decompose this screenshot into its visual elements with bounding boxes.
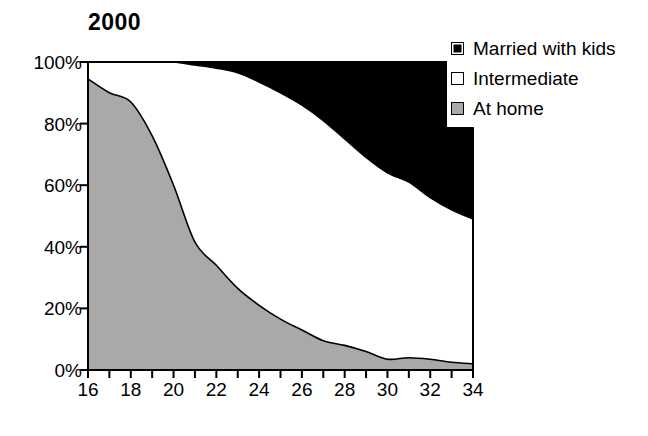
x-axis: 16182022242628303234	[88, 380, 473, 408]
stacked-area-plot	[88, 62, 473, 370]
x-tick-label: 22	[196, 380, 236, 399]
legend-label: Married with kids	[473, 39, 616, 58]
bottom-caption	[2, 424, 646, 436]
legend-swatch-black-icon	[451, 42, 464, 55]
y-tick-label: 100%	[10, 53, 82, 72]
x-tick-label: 34	[453, 380, 493, 399]
x-tick-label: 28	[325, 380, 365, 399]
legend-item[interactable]: Married with kids	[451, 33, 616, 63]
x-tick-label: 26	[282, 380, 322, 399]
x-tick-label: 24	[239, 380, 279, 399]
legend-label: At home	[473, 99, 544, 118]
x-tick-label: 20	[154, 380, 194, 399]
legend-label: Intermediate	[473, 69, 579, 88]
y-tick-label: 40%	[10, 237, 82, 256]
y-tick-label: 80%	[10, 114, 82, 133]
legend-item[interactable]: Intermediate	[451, 63, 616, 93]
chart-legend: Married with kidsIntermediateAt home	[447, 31, 620, 127]
x-tick-label: 30	[367, 380, 407, 399]
chart-title: 2000	[88, 11, 141, 34]
y-axis: 0%20%40%60%80%100%	[4, 62, 82, 370]
legend-swatch-white-icon	[451, 72, 464, 85]
legend-item[interactable]: At home	[451, 93, 616, 123]
legend-swatch-gray-icon	[451, 102, 464, 115]
x-tick-label: 18	[111, 380, 151, 399]
plot-area	[88, 62, 473, 370]
y-tick-label: 20%	[10, 299, 82, 318]
x-tick-label: 32	[410, 380, 450, 399]
y-tick-label: 0%	[10, 361, 82, 380]
x-tick-label: 16	[68, 380, 108, 399]
y-tick-label: 60%	[10, 176, 82, 195]
chart-figure: 2000 0%20%40%60%80%100% 1618202224262830…	[0, 0, 648, 436]
